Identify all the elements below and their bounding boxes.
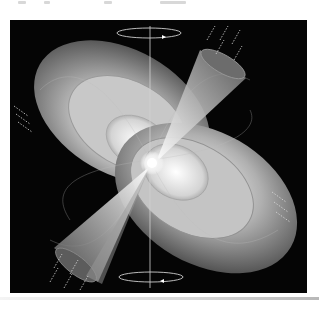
cropped-text-fragment bbox=[160, 1, 186, 4]
page-top-cropped-text bbox=[0, 0, 319, 8]
neutron-star bbox=[140, 151, 164, 175]
cropped-text-fragment bbox=[18, 1, 26, 4]
pulsar-figure bbox=[10, 20, 307, 293]
cropped-text-fragment bbox=[44, 1, 50, 4]
rotation-arrow-bottom bbox=[119, 272, 183, 283]
cropped-text-fragment bbox=[104, 1, 112, 4]
radiation-beam-lower bbox=[51, 166, 150, 287]
pulsar-illustration bbox=[10, 20, 307, 293]
rotation-arrow-top bbox=[117, 28, 181, 39]
page-divider bbox=[0, 297, 319, 300]
